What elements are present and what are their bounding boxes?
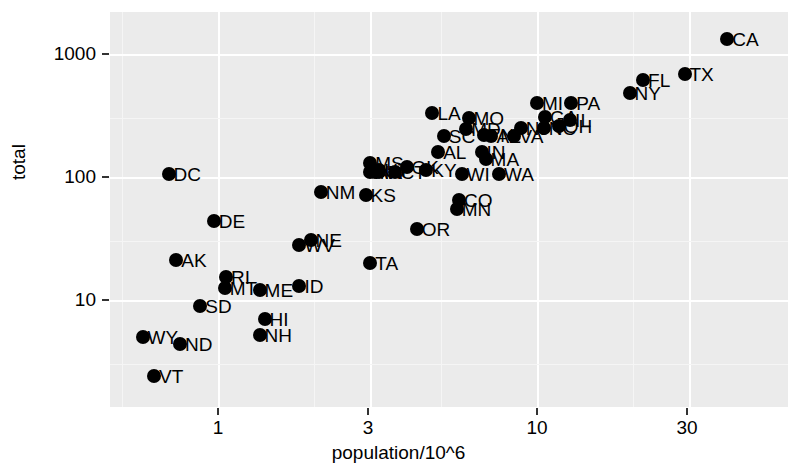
data-point-label: SD xyxy=(205,297,231,316)
data-point-label: CA xyxy=(732,30,758,49)
y-gridline-minor xyxy=(110,241,788,242)
data-point-label: WY xyxy=(148,328,179,347)
x-tick-label: 1 xyxy=(213,418,224,437)
y-tick-label: 10 xyxy=(0,290,96,309)
data-point-label: ND xyxy=(185,335,212,354)
data-point-label: LA xyxy=(437,104,460,123)
x-gridline-minor xyxy=(314,12,315,407)
x-axis-label: population/10^6 xyxy=(0,442,797,464)
y-gridline-major xyxy=(110,54,788,56)
x-gridline-major xyxy=(537,12,539,407)
plot-panel: CATXFLNYPAILOHMIGANCNJVAWAMAINAZTNMOMDWI… xyxy=(110,12,788,407)
data-point-label: NY xyxy=(635,84,661,103)
data-point-label: ID xyxy=(304,277,323,296)
x-tick-label: 30 xyxy=(676,418,697,437)
scatter-plot-figure: CATXFLNYPAILOHMIGANCNJVAWAMAINAZTNMOMDWI… xyxy=(0,0,797,473)
data-point-label: OR xyxy=(422,220,451,239)
data-point-label: DE xyxy=(219,212,245,231)
x-tick-mark xyxy=(217,408,219,415)
data-point-label: HI xyxy=(270,310,289,329)
data-point-label: NV xyxy=(380,163,406,182)
y-tick-mark xyxy=(102,53,109,55)
x-gridline-major xyxy=(218,12,220,407)
y-tick-label: 1000 xyxy=(0,44,96,63)
y-gridline-minor xyxy=(110,364,788,365)
data-point-label: DC xyxy=(174,165,201,184)
data-point-label: VA xyxy=(519,127,543,146)
x-tick-label: 10 xyxy=(526,418,547,437)
y-tick-mark xyxy=(102,299,109,301)
data-point-label: WI xyxy=(467,165,490,184)
y-tick-mark xyxy=(102,176,109,178)
x-gridline-minor xyxy=(122,12,123,407)
data-point-label: MT xyxy=(230,279,257,298)
data-point-label: VT xyxy=(159,367,183,386)
x-gridline-minor xyxy=(633,12,634,407)
data-point-label: NC xyxy=(549,119,576,138)
data-point-label: MD xyxy=(471,120,501,139)
x-gridline-major xyxy=(370,12,372,407)
data-point-label: KS xyxy=(371,186,396,205)
data-point-label: NM xyxy=(326,183,356,202)
x-tick-mark xyxy=(536,408,538,415)
data-point-label: CO xyxy=(464,191,493,210)
data-point-label: TA xyxy=(375,254,398,273)
x-tick-mark xyxy=(367,408,369,415)
x-gridline-minor xyxy=(441,12,442,407)
x-tick-label: 3 xyxy=(363,418,374,437)
data-point-label: WV xyxy=(304,236,335,255)
data-point-label: TX xyxy=(690,65,714,84)
data-point-label: AK xyxy=(181,251,206,270)
data-point-label: ME xyxy=(265,281,294,300)
y-axis-label: total xyxy=(8,144,30,180)
x-tick-mark xyxy=(686,408,688,415)
